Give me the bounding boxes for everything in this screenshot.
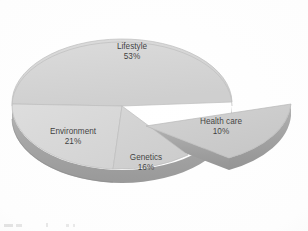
slice-label-environment-value: 21% xyxy=(31,137,115,147)
slice-label-lifestyle-name: Lifestyle xyxy=(96,42,168,52)
slice-label-lifestyle-value: 53% xyxy=(96,52,168,62)
pie-chart: Lifestyle 53% Health care 10% Environmen… xyxy=(0,0,308,231)
slice-label-health-care-name: Health care xyxy=(185,117,257,127)
slice-label-lifestyle: Lifestyle 53% xyxy=(96,42,168,63)
slice-label-genetics: Genetics 16% xyxy=(110,153,182,174)
slice-label-health-care: Health care 10% xyxy=(185,117,257,138)
slice-label-genetics-value: 16% xyxy=(110,163,182,173)
slice-label-environment: Environment 21% xyxy=(31,127,115,148)
slice-label-health-care-value: 10% xyxy=(185,127,257,137)
slice-label-genetics-name: Genetics xyxy=(110,153,182,163)
pie-chart-graphic xyxy=(0,0,308,231)
slice-label-environment-name: Environment xyxy=(31,127,115,137)
